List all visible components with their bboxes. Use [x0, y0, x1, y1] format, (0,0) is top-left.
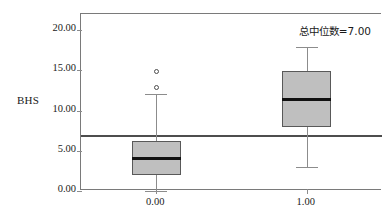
y-axis-tick-label: 10.00 — [30, 103, 76, 114]
whisker-cap-upper — [296, 47, 318, 48]
whisker-upper — [156, 94, 157, 141]
y-axis-tick-mark — [77, 70, 82, 71]
y-axis-tick-mark — [77, 191, 82, 192]
whisker-cap-upper — [145, 94, 167, 95]
overall-median-annotation: 总中位数=7.00 — [251, 23, 371, 38]
y-axis-tick-mark — [77, 151, 82, 152]
whisker-lower — [307, 127, 308, 167]
whisker-lower — [156, 175, 157, 191]
plot-area — [80, 13, 381, 190]
median-bar — [132, 157, 181, 160]
whisker-upper — [307, 47, 308, 71]
outlier-point — [154, 69, 159, 74]
whisker-cap-lower — [145, 191, 167, 192]
x-axis-tick-label: 1.00 — [271, 196, 341, 207]
y-axis-tick-label: 15.00 — [30, 62, 76, 73]
median-bar — [282, 98, 331, 101]
y-axis-tick-label: 0.00 — [30, 183, 76, 194]
outlier-point — [154, 85, 159, 90]
overall-median-reference-line — [81, 135, 382, 137]
whisker-cap-lower — [296, 167, 318, 168]
y-axis-tick-mark — [77, 111, 82, 112]
y-axis-tick-label: 20.00 — [30, 22, 76, 33]
y-axis-tick-label: 5.00 — [30, 143, 76, 154]
x-axis-tick-mark — [307, 189, 308, 194]
y-axis-tick-mark — [77, 30, 82, 31]
x-axis-tick-label: 0.00 — [120, 196, 190, 207]
